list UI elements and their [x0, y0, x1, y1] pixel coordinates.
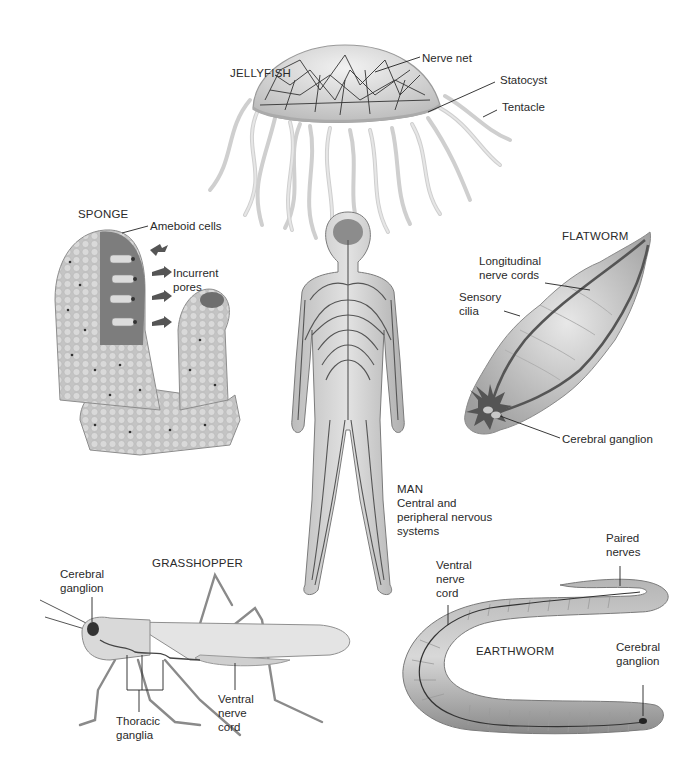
earthworm-ventral-label-line2: nerve [436, 572, 465, 586]
statocyst-label: Statocyst [500, 73, 547, 87]
grasshopper-title: GRASSHOPPER [152, 556, 243, 570]
diagram-artwork [0, 0, 698, 769]
grasshopper-illustration [40, 575, 350, 735]
longitudinal-label-line1: Longitudinal [479, 254, 541, 268]
flatworm-cerebral-ganglion-label: Cerebral ganglion [562, 432, 653, 446]
man-title: MAN [397, 482, 423, 496]
human-illustration [292, 212, 405, 595]
paired-nerves-label-line2: nerves [606, 545, 641, 559]
sensory-cilia-leader [504, 311, 520, 316]
man-caption-line1: Central and [397, 496, 456, 510]
paired-nerves-label-line1: Paired [606, 531, 639, 545]
earthworm-ventral-label-line1: Ventral [436, 558, 472, 572]
grasshopper-ventral-label-line1: Ventral [218, 692, 254, 706]
man-caption-line3: systems [397, 524, 439, 538]
sponge-title: SPONGE [78, 207, 128, 221]
thoracic-ganglia-label-line1: Thoracic [116, 714, 160, 728]
incurrent-pores-label-line1: Incurrent [173, 266, 218, 280]
ameboid-cells-leader [122, 226, 148, 233]
tentacle-leader [483, 110, 497, 117]
ameboid-cells-label: Ameboid cells [150, 219, 222, 233]
thoracic-ganglia-label-line2: ganglia [116, 728, 153, 742]
sensory-cilia-label-line2: cilia [459, 304, 479, 318]
grasshopper-ventral-label-line2: nerve [218, 706, 247, 720]
sponge-illustration [55, 226, 240, 455]
man-caption-line2: peripheral nervous [397, 510, 492, 524]
sensory-cilia-label-line1: Sensory [459, 290, 501, 304]
nerve-net-label: Nerve net [422, 51, 472, 65]
earthworm-title: EARTHWORM [476, 644, 554, 658]
jellyfish-title: JELLYFISH [230, 66, 291, 80]
flatworm-title: FLATWORM [562, 229, 629, 243]
incurrent-pores-label-line2: pores [173, 280, 202, 294]
longitudinal-label-line2: nerve cords [479, 268, 539, 282]
grasshopper-cerebral-label-line2: ganglion [60, 581, 103, 595]
tentacle-label: Tentacle [502, 100, 545, 114]
grasshopper-ventral-label-line3: cord [218, 720, 240, 734]
grasshopper-cerebral-label-line1: Cerebral [60, 567, 104, 581]
earthworm-ventral-label-line3: cord [436, 586, 458, 600]
earthworm-cerebral-label-line2: ganglion [616, 654, 659, 668]
earthworm-cerebral-label-line1: Cerebral [616, 640, 660, 654]
